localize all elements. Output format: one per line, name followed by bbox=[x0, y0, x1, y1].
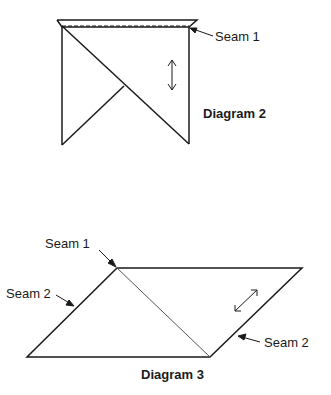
parallelogram bbox=[27, 268, 302, 357]
grain-arrow-icon-diagonal bbox=[235, 290, 257, 311]
seam-2-right-pointer-icon bbox=[238, 334, 260, 342]
inner-diagonal bbox=[62, 86, 124, 145]
seam-1-label-d3: Seam 1 bbox=[45, 236, 90, 251]
grain-arrow-icon bbox=[168, 60, 176, 90]
diagram-3-shape bbox=[27, 268, 302, 357]
seam-2-left-pointer-icon bbox=[56, 295, 74, 306]
diagram-3-title: Diagram 3 bbox=[141, 367, 204, 382]
seam-2-left-label: Seam 2 bbox=[6, 286, 51, 301]
seam-1-label: Seam 1 bbox=[215, 29, 260, 44]
diagram-2-shape bbox=[57, 20, 197, 145]
diagonal-fold bbox=[117, 268, 210, 357]
seam-1-pointer-icon bbox=[190, 28, 213, 36]
seam-2-right-label: Seam 2 bbox=[264, 335, 309, 350]
diagram-2-title: Diagram 2 bbox=[203, 106, 266, 121]
seam-1-pointer-icon-d3 bbox=[99, 250, 116, 267]
